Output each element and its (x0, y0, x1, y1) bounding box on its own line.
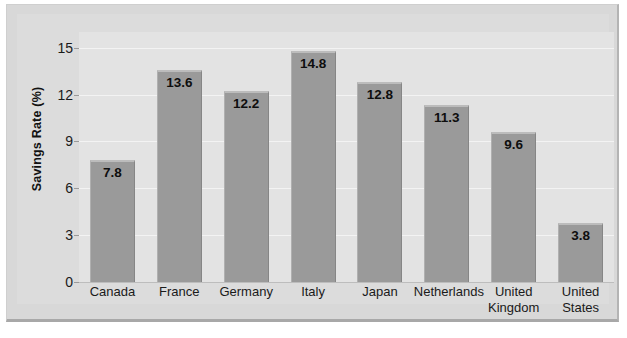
x-axis-tick-label-line: France (146, 284, 212, 300)
x-axis-tick-label: UnitedKingdom (481, 284, 547, 316)
bar-value-label: 13.6 (158, 75, 201, 90)
x-axis-tick-label-line: States (548, 300, 614, 316)
x-axis-tick-label-line: Kingdom (481, 300, 547, 316)
bar[interactable]: 9.6 (491, 132, 536, 282)
axis-baseline (79, 282, 614, 283)
bar-value-label: 12.2 (225, 96, 268, 111)
x-axis-tick-label-line: Netherlands (414, 284, 480, 300)
bar-slot: 14.8 (291, 32, 336, 282)
chart-plot-wrapper: Savings Rate (%) 03691215 7.813.612.214.… (22, 14, 617, 310)
bar[interactable]: 14.8 (291, 51, 336, 282)
bar-slot: 7.8 (90, 32, 135, 282)
x-axis-tick-label-line: Germany (213, 284, 279, 300)
bar[interactable]: 11.3 (424, 105, 469, 282)
y-axis-tick-label: 15 (57, 40, 73, 56)
bar-value-label: 9.6 (492, 137, 535, 152)
bar[interactable]: 12.8 (357, 82, 402, 282)
bar-slot: 12.8 (357, 32, 402, 282)
x-axis-tick-label-line: United (481, 284, 547, 300)
bar-value-label: 7.8 (91, 165, 134, 180)
y-axis-tick-label: 3 (65, 227, 73, 243)
bar-value-label: 12.8 (358, 87, 401, 102)
y-axis-tick-mark (74, 282, 79, 283)
bar-slot: 9.6 (491, 32, 536, 282)
y-axis-title-text: Savings Rate (%) (30, 87, 44, 192)
x-axis-tick-label-line: Italy (280, 284, 346, 300)
y-axis-title: Savings Rate (%) (26, 14, 48, 264)
bar-slot: 11.3 (424, 32, 469, 282)
x-axis-tick-label: Italy (280, 284, 346, 316)
y-axis-tick-label: 0 (65, 274, 73, 290)
bar-slot: 13.6 (157, 32, 202, 282)
x-axis-tick-label-line: Canada (79, 284, 145, 300)
bar-value-label: 14.8 (292, 56, 335, 71)
bar[interactable]: 7.8 (90, 160, 135, 282)
bar-slot: 12.2 (224, 32, 269, 282)
y-axis-tick-label: 6 (65, 180, 73, 196)
x-axis-tick-label: UnitedStates (548, 284, 614, 316)
y-axis-tick-label: 9 (65, 133, 73, 149)
plot-area: 7.813.612.214.812.811.39.63.8 (79, 32, 614, 282)
y-axis-tick-label: 12 (57, 87, 73, 103)
bar-value-label: 11.3 (425, 110, 468, 125)
bar-slot: 3.8 (558, 32, 603, 282)
bar-series: 7.813.612.214.812.811.39.63.8 (79, 32, 614, 282)
x-axis-tick-labels: CanadaFranceGermanyItalyJapanNetherlands… (79, 284, 614, 316)
bar[interactable]: 13.6 (157, 70, 202, 283)
bar-value-label: 3.8 (559, 228, 602, 243)
chart-container: Savings Rate (%) 03691215 7.813.612.214.… (0, 0, 627, 338)
bar[interactable]: 12.2 (224, 91, 269, 282)
y-axis-tick-labels: 03691215 (50, 32, 76, 282)
x-axis-tick-label: Germany (213, 284, 279, 316)
x-axis-tick-label-line: United (548, 284, 614, 300)
x-axis-tick-label: Japan (347, 284, 413, 316)
x-axis-tick-label: France (146, 284, 212, 316)
bar[interactable]: 3.8 (558, 223, 603, 282)
x-axis-tick-label: Netherlands (414, 284, 480, 316)
x-axis-tick-label: Canada (79, 284, 145, 316)
x-axis-tick-label-line: Japan (347, 284, 413, 300)
